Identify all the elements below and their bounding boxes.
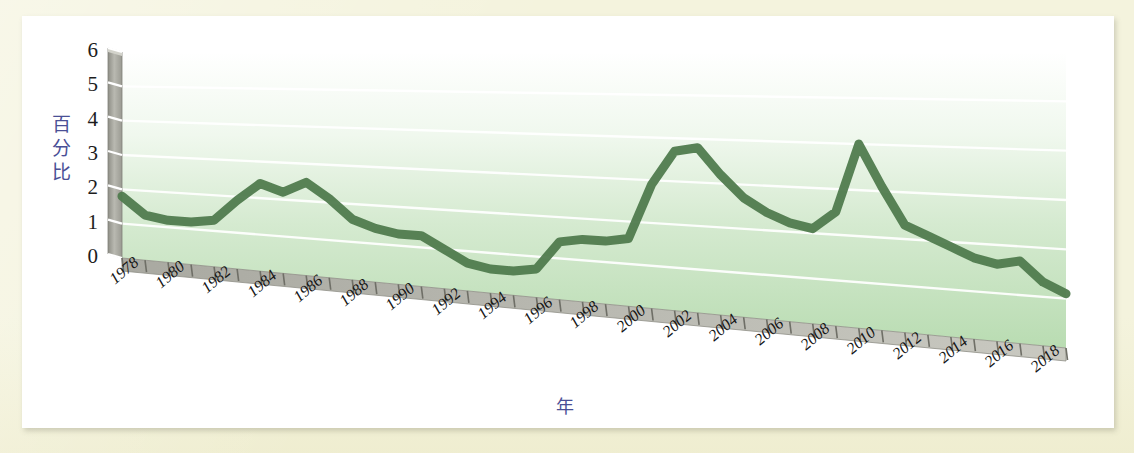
y-axis-title: 百分比 (48, 112, 74, 184)
y-axis-tick-label: 1 (76, 210, 98, 235)
y-axis-tick-label: 0 (76, 244, 98, 269)
x-axis-title: 年 (556, 392, 574, 418)
y-axis-tick-label: 3 (76, 141, 98, 166)
y-axis-tick-label: 2 (76, 175, 98, 200)
y-axis-tick-label: 4 (76, 107, 98, 132)
line-chart-3d (22, 16, 1114, 428)
chart-card: 百分比 年 0123456 19781980198219841986198819… (22, 16, 1114, 428)
y-axis-tick-label: 5 (76, 72, 98, 97)
screenshot-root: 百分比 年 0123456 19781980198219841986198819… (0, 0, 1134, 453)
y-axis-tick-label: 6 (76, 38, 98, 63)
plot-stage: 百分比 年 0123456 19781980198219841986198819… (22, 16, 1114, 428)
